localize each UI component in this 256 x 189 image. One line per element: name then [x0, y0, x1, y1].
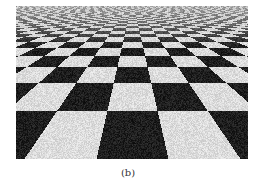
- figure-caption: (b): [0, 167, 256, 178]
- checkerboard-image: [16, 6, 248, 159]
- checkerboard-canvas: [16, 6, 248, 159]
